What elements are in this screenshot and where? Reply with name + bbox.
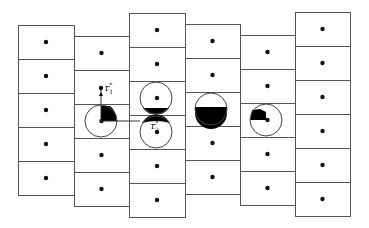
cell-center-dot bbox=[320, 197, 324, 201]
cell-center-dot bbox=[210, 141, 214, 145]
cell-center-dot bbox=[44, 142, 48, 146]
cell-center-dot bbox=[210, 175, 214, 179]
cell-center-dot bbox=[155, 198, 159, 202]
cell-center-dot bbox=[210, 73, 214, 77]
cell-center-dot bbox=[265, 186, 269, 190]
cell-center-dot bbox=[320, 163, 324, 167]
cell-center-dot bbox=[155, 164, 159, 168]
cell-center-dot bbox=[155, 28, 159, 32]
cell-center-dot bbox=[320, 129, 324, 133]
cell-center-dot bbox=[155, 96, 159, 100]
cell-center-dot bbox=[265, 152, 269, 156]
cell-center-dot bbox=[99, 153, 103, 157]
r1-point bbox=[99, 86, 103, 90]
cell-center-dot bbox=[44, 74, 48, 78]
cell-center-dot bbox=[265, 84, 269, 88]
cell-center-dot bbox=[320, 61, 324, 65]
cell-center-dot bbox=[44, 40, 48, 44]
cell-grid bbox=[19, 13, 351, 218]
cell-center-dot bbox=[99, 51, 103, 55]
cell-center-dot bbox=[265, 50, 269, 54]
cell-center-dot bbox=[44, 108, 48, 112]
cell-center-dot bbox=[44, 176, 48, 180]
cell-center-dot bbox=[210, 39, 214, 43]
cell-center-dot bbox=[320, 95, 324, 99]
cell-center-dot bbox=[155, 62, 159, 66]
label-r1: r*1 bbox=[105, 81, 113, 95]
cell-center-dot bbox=[99, 187, 103, 191]
particle-cell-diagram: r*1 r*2 bbox=[0, 0, 369, 228]
cell-center-dot bbox=[320, 27, 324, 31]
label-r2: r*2 bbox=[151, 119, 159, 133]
